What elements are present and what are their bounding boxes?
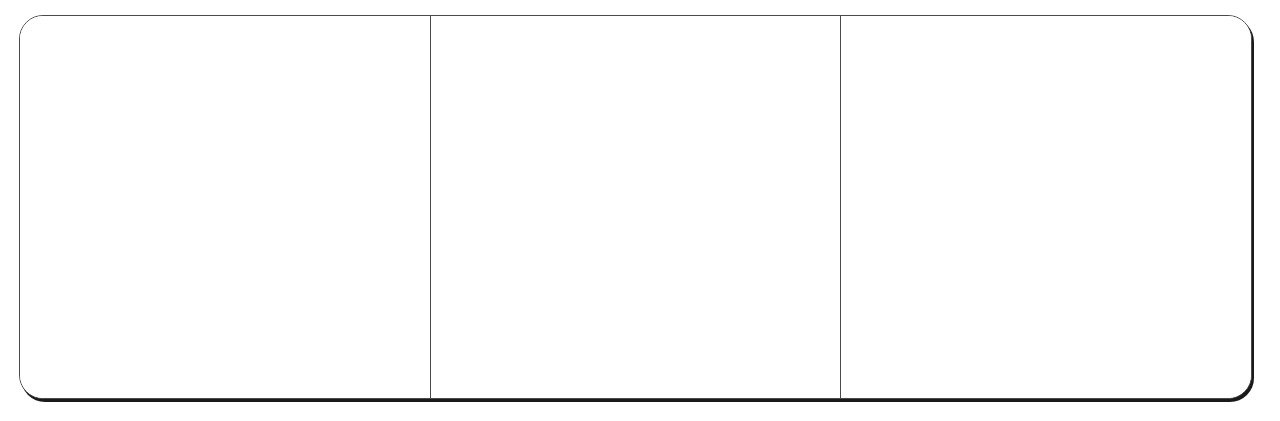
three-panel-frame	[19, 15, 1252, 399]
panel-middle	[430, 16, 841, 398]
panel-left	[20, 16, 430, 398]
panel-right	[840, 16, 1251, 398]
